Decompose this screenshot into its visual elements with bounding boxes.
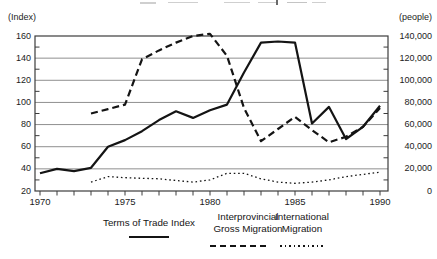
y-left-tick-label: 20: [6, 186, 31, 197]
x-tick-label: 1970: [25, 196, 55, 207]
x-tick-label: 1985: [280, 196, 310, 207]
y-right-tick-label: 60,000: [394, 119, 432, 130]
y-right-tick-label: 80,000: [394, 97, 432, 108]
series-dotted-line: [91, 172, 380, 183]
y-right-tick-label: 20,000: [394, 163, 432, 174]
y-left-tick-label: 140: [6, 53, 31, 64]
legend-line-dotted-icon: [280, 245, 324, 247]
y-right-tick-label: 140,000: [394, 31, 432, 42]
x-tick-label: 1975: [110, 196, 140, 207]
y-left-tick-label: 80: [6, 119, 31, 130]
y-right-tick-label: 40,000: [394, 141, 432, 152]
y-left-tick-label: 60: [6, 141, 31, 152]
legend-line-solid-icon: [129, 236, 169, 241]
x-tick-label: 1980: [195, 196, 225, 207]
y-left-tick-label: 100: [6, 97, 31, 108]
legend-label-terms-of-trade: Terms of Trade Index: [92, 217, 206, 229]
x-tick-label: 1990: [365, 196, 395, 207]
legend-label-international-migration: International Migration: [272, 211, 332, 234]
y-right-tick-label: 120,000: [394, 53, 432, 64]
y-right-tick-label: 100,000: [394, 75, 432, 86]
y-right-tick-label: 0: [394, 186, 432, 197]
y-left-tick-label: 40: [6, 163, 31, 174]
chart-page: (Index) (people) 16014012010080604020140…: [0, 0, 437, 259]
legend-line-dashed-icon: [210, 245, 266, 247]
series-solid-line: [40, 42, 380, 174]
y-left-tick-label: 120: [6, 75, 31, 86]
y-left-tick-label: 160: [6, 31, 31, 42]
